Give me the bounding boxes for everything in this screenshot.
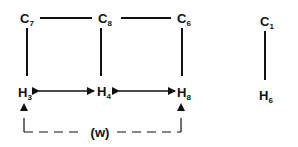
atom-c7: C7 — [20, 11, 34, 28]
atom-c8: C8 — [98, 11, 112, 28]
svg-text:H3: H3 — [18, 85, 32, 102]
atom-c6: C6 — [177, 11, 191, 28]
atom-h4: H4 — [97, 84, 111, 101]
svg-text:C6: C6 — [177, 11, 191, 28]
noe-diagram: (w) C7 C8 C6 C1 H3 H4 H8 H6 — [0, 0, 298, 147]
weak-arrowhead-h3 — [20, 103, 28, 111]
atom-h6: H6 — [259, 88, 273, 105]
svg-text:C7: C7 — [20, 11, 34, 28]
svg-text:C1: C1 — [260, 14, 274, 31]
svg-text:H6: H6 — [259, 88, 273, 105]
weak-arrowhead-h8 — [177, 103, 185, 111]
atom-h3: H3 — [18, 85, 32, 102]
svg-text:H8: H8 — [177, 85, 191, 102]
svg-text:H4: H4 — [97, 84, 111, 101]
atom-c1: C1 — [260, 14, 274, 31]
svg-text:C8: C8 — [98, 11, 112, 28]
weak-label: (w) — [91, 125, 110, 140]
atom-h8: H8 — [177, 85, 191, 102]
